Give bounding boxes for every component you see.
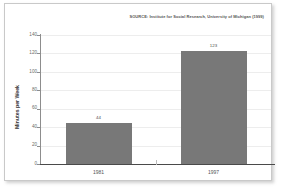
y-axis-tick-label: 40 xyxy=(11,125,37,130)
x-axis-category-separator xyxy=(156,160,157,165)
y-axis-tick-label: 100 xyxy=(11,70,37,75)
gridline xyxy=(41,35,271,36)
y-axis-tick-mark xyxy=(37,90,40,91)
y-axis-tick-mark xyxy=(37,127,40,128)
y-axis-tick-labels: 020406080100120140 xyxy=(9,35,37,164)
source-annotation: SOURCE: Institute for Social Research, U… xyxy=(129,15,264,19)
bar[interactable] xyxy=(66,123,132,164)
y-axis-tick-label: 120 xyxy=(11,51,37,56)
y-axis-tick-mark xyxy=(37,35,40,36)
x-axis-tick-label: 1981 xyxy=(74,170,124,175)
y-axis-tick-label: 0 xyxy=(11,162,37,167)
y-axis-tick-mark xyxy=(37,164,40,165)
x-axis-line xyxy=(40,164,275,165)
bar-value-label: 123 xyxy=(194,44,234,48)
bar-value-label: 44 xyxy=(79,116,119,120)
bar[interactable] xyxy=(181,51,247,164)
y-axis-tick-label: 80 xyxy=(11,88,37,93)
y-axis-tick-mark xyxy=(37,53,40,54)
y-axis-tick-label: 140 xyxy=(11,33,37,38)
x-axis-tick-label: 1997 xyxy=(189,170,239,175)
y-axis-tick-label: 20 xyxy=(11,143,37,148)
y-axis-tick-mark xyxy=(37,146,40,147)
y-axis-tick-mark xyxy=(37,109,40,110)
chart-figure: SOURCE: Institute for Social Research, U… xyxy=(0,0,282,191)
plot-area: 44123 xyxy=(41,35,271,164)
y-axis-tick-label: 60 xyxy=(11,106,37,111)
chart-frame: SOURCE: Institute for Social Research, U… xyxy=(4,3,272,181)
y-axis-tick-mark xyxy=(37,72,40,73)
